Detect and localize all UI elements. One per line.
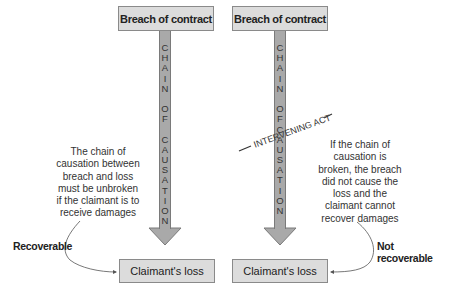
right-causation-note: If the chain of causation is broken, the… bbox=[310, 139, 410, 225]
not-recoverable-connector-arrow-icon bbox=[330, 270, 334, 274]
intervening-dash-left bbox=[239, 146, 251, 151]
left-breach-label: Breach of contract bbox=[120, 13, 212, 25]
right-claimants-loss-box: Claimant's loss bbox=[232, 259, 328, 283]
left-causation-note: The chain of causation between breach an… bbox=[48, 146, 148, 220]
left-shaft-text: C H A I N O F C A U S A T I O N bbox=[159, 43, 171, 226]
recoverable-label: Recoverable bbox=[13, 240, 72, 252]
left-arrowhead-icon bbox=[149, 228, 181, 245]
not-recoverable-connector bbox=[331, 222, 374, 272]
not-recoverable-label: Not recoverable bbox=[377, 240, 451, 264]
recoverable-connector bbox=[65, 221, 116, 272]
right-breach-label: Breach of contract bbox=[234, 13, 326, 25]
left-breach-box: Breach of contract bbox=[118, 6, 214, 31]
left-claimants-loss-box: Claimant's loss bbox=[119, 259, 215, 283]
recoverable-connector-arrow-icon bbox=[113, 270, 117, 274]
right-breach-box: Breach of contract bbox=[232, 6, 328, 31]
right-arrowhead-icon bbox=[264, 228, 296, 245]
